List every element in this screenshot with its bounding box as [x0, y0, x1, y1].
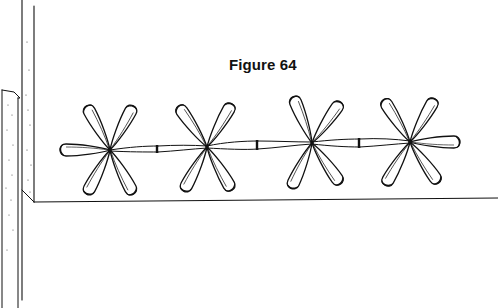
flower-4	[378, 95, 460, 188]
wall	[22, 0, 34, 300]
shelf-line	[34, 198, 498, 202]
flower-1	[60, 103, 139, 197]
post	[2, 90, 20, 308]
stems	[110, 138, 410, 153]
flower-2	[173, 100, 237, 194]
figure-illustration	[0, 0, 498, 308]
figure-caption: Figure 64	[229, 56, 297, 73]
flower-3	[285, 94, 345, 191]
